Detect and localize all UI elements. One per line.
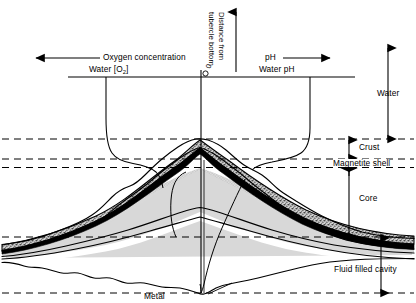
figure-canvas: Oxygen concentration Water [O2] pH Water… — [0, 0, 416, 303]
ph-label: pH — [265, 53, 276, 61]
water-o2-label: Water [O2] — [89, 65, 128, 74]
water-o2-bracket: ] — [126, 64, 128, 74]
distance-from-label: Distance from — [217, 12, 226, 60]
metal-leader — [208, 283, 232, 294]
oxygen-profile-curve — [106, 77, 163, 188]
magnetite-shell-layer-label: Magnetite shell — [333, 159, 390, 167]
origin-marker — [203, 71, 208, 76]
water-ph-label: Water pH — [259, 65, 295, 73]
fluid-filled-cavity-label: Fluid filled cavity — [334, 265, 397, 273]
crust-layer-label: Crust — [359, 143, 379, 151]
origin-zero-label: 0 — [204, 64, 213, 68]
oxygen-concentration-label: Oxygen concentration — [103, 53, 186, 61]
core-blob — [6, 170, 412, 258]
tubercle-bottom-label: tubercle bottom — [207, 12, 216, 66]
water-o2-subscript: 2 — [123, 69, 126, 75]
metal-label: Metal — [144, 292, 165, 300]
water-layer-label: Water — [377, 89, 399, 97]
water-o2-text: Water [O — [89, 64, 123, 74]
core-layer-label: Core — [359, 194, 377, 202]
ph-profile-curve — [252, 77, 310, 170]
